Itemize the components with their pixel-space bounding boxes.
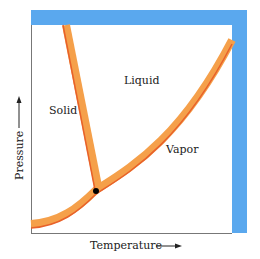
vapor-pressure-curve — [31, 40, 232, 224]
region-label-vapor: Vapor — [166, 143, 198, 156]
region-label-liquid: Liquid — [124, 74, 160, 87]
pressure-arrow-head — [17, 96, 22, 103]
temperature-arrow-head — [175, 244, 182, 249]
region-label-solid: Solid — [49, 104, 77, 117]
triple-point — [93, 188, 99, 194]
vapor-curve-edge — [31, 44, 232, 228]
x-axis-label: Temperature — [90, 239, 162, 252]
phase-diagram — [0, 0, 260, 259]
frame-top — [31, 10, 247, 25]
y-axis-label: Pressure — [13, 131, 26, 180]
